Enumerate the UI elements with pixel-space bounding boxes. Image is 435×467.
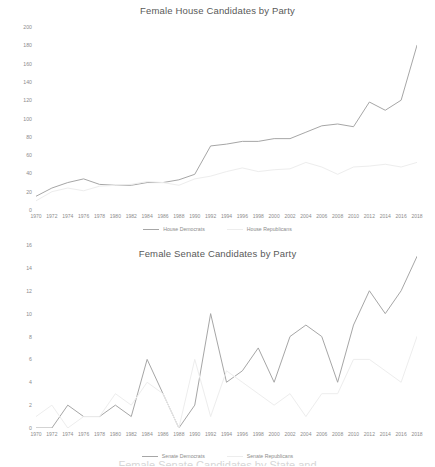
legend-label: House Democrats: [163, 226, 205, 232]
house-x-axis: 1970197219741976197819801982198419861988…: [36, 213, 417, 222]
legend-item[interactable]: House Republicans: [227, 226, 292, 232]
y-axis-tick: 0: [6, 426, 32, 431]
plot-lines: [36, 245, 417, 428]
x-axis-tick: 2002: [282, 213, 298, 220]
x-axis-tick: 2008: [330, 213, 346, 220]
x-axis-tick: 2014: [377, 431, 393, 438]
house-legend: House DemocratsHouse Republicans: [0, 226, 435, 232]
legend-line-swatch: [227, 229, 243, 230]
x-axis-tick: 1996: [234, 213, 250, 220]
x-axis-tick: 1982: [123, 213, 139, 220]
x-axis-tick: 2004: [298, 213, 314, 220]
y-axis-tick: 2: [6, 403, 32, 408]
y-axis-tick: 100: [6, 116, 32, 121]
x-axis-tick: 2018: [409, 213, 425, 220]
x-axis-tick: 1974: [60, 213, 76, 220]
x-axis-tick: 2006: [314, 213, 330, 220]
x-axis-tick: 1982: [123, 431, 139, 438]
x-axis-tick: 2014: [377, 213, 393, 220]
x-axis-tick: 2002: [282, 431, 298, 438]
x-axis-tick: 1974: [60, 431, 76, 438]
x-axis-tick: 1970: [28, 431, 44, 438]
x-axis-tick: 1972: [44, 431, 60, 438]
y-axis-tick: 10: [6, 311, 32, 316]
x-axis-tick: 1994: [219, 213, 235, 220]
y-axis-tick: 16: [6, 243, 32, 248]
y-axis-tick: 20: [6, 189, 32, 194]
x-axis-tick: 2000: [266, 213, 282, 220]
x-axis-tick: 1984: [139, 431, 155, 438]
senate-y-axis: 0246810121416: [6, 245, 32, 428]
legend-line-swatch: [142, 456, 158, 457]
house-chart-title: Female House Candidates by Party: [0, 5, 435, 16]
house-plot-area: [36, 27, 417, 210]
x-axis-tick: 1976: [76, 431, 92, 438]
x-axis-tick: 2008: [330, 431, 346, 438]
x-axis-tick: 1972: [44, 213, 60, 220]
x-axis-tick: 1996: [234, 431, 250, 438]
x-axis-tick: 1998: [250, 213, 266, 220]
x-axis-tick: 1986: [155, 431, 171, 438]
y-axis-tick: 8: [6, 334, 32, 339]
y-axis-tick: 40: [6, 171, 32, 176]
chart-page: Female House Candidates by Party 0204060…: [0, 0, 435, 467]
senate-x-axis: 1970197219741976197819801982198419861988…: [36, 431, 417, 440]
x-axis-tick: 1970: [28, 213, 44, 220]
y-axis-tick: 4: [6, 380, 32, 385]
x-axis-tick: 1978: [92, 213, 108, 220]
y-axis-tick: 200: [6, 25, 32, 30]
series-line: [36, 162, 417, 200]
x-axis-tick: 1990: [187, 431, 203, 438]
x-axis-tick: 2010: [346, 213, 362, 220]
x-axis-tick: 2000: [266, 431, 282, 438]
x-axis-tick: 1992: [203, 431, 219, 438]
x-axis-tick: 1988: [171, 431, 187, 438]
senate-chart-panel: Female Senate Candidates by Party 024681…: [0, 235, 435, 467]
legend-label: House Republicans: [247, 226, 292, 232]
x-axis-tick: 2004: [298, 431, 314, 438]
x-axis-tick: 1980: [107, 213, 123, 220]
x-axis-tick: 2016: [393, 213, 409, 220]
y-axis-tick: 14: [6, 265, 32, 270]
x-axis-tick: 1990: [187, 213, 203, 220]
x-axis-tick: 2010: [346, 431, 362, 438]
legend-line-swatch: [143, 229, 159, 230]
x-axis-tick: 1988: [171, 213, 187, 220]
x-axis-tick: 2016: [393, 431, 409, 438]
series-line: [36, 45, 417, 196]
y-axis-tick: 160: [6, 61, 32, 66]
x-axis-tick: 1994: [219, 431, 235, 438]
x-axis-tick: 2012: [361, 431, 377, 438]
y-axis-tick: 120: [6, 98, 32, 103]
x-axis-tick: 1998: [250, 431, 266, 438]
x-axis-tick: 1986: [155, 213, 171, 220]
x-axis-tick: 1978: [92, 431, 108, 438]
legend-item[interactable]: House Democrats: [143, 226, 205, 232]
y-axis-tick: 60: [6, 153, 32, 158]
y-axis-tick: 12: [6, 288, 32, 293]
house-chart-panel: Female House Candidates by Party 0204060…: [0, 0, 435, 235]
x-axis-tick: 2012: [361, 213, 377, 220]
x-axis-tick: 1980: [107, 431, 123, 438]
x-axis-tick: 1992: [203, 213, 219, 220]
house-y-axis: 020406080100120140160180200: [6, 27, 32, 210]
y-axis-tick: 0: [6, 208, 32, 213]
senate-plot-area: [36, 245, 417, 428]
x-axis-tick: 2018: [409, 431, 425, 438]
x-axis-tick: 1984: [139, 213, 155, 220]
y-axis-tick: 180: [6, 43, 32, 48]
series-line: [36, 256, 417, 428]
y-axis-tick: 6: [6, 357, 32, 362]
y-axis-tick: 140: [6, 79, 32, 84]
footer-partial-text: Female Senate Candidates by State and: [0, 459, 435, 466]
plot-lines: [36, 27, 417, 210]
x-axis-tick: 1976: [76, 213, 92, 220]
y-axis-tick: 80: [6, 134, 32, 139]
legend-line-swatch: [227, 456, 243, 457]
x-axis-tick: 2006: [314, 431, 330, 438]
